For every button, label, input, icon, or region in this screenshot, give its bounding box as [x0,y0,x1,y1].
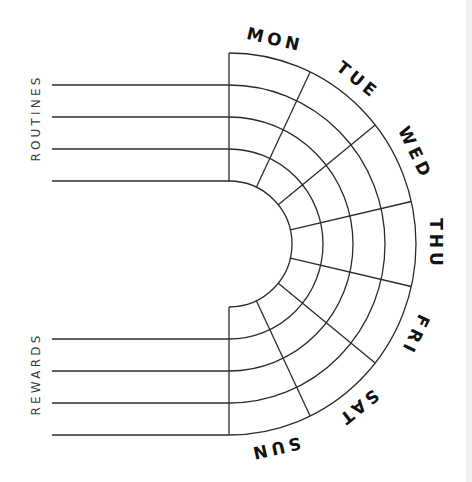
day-label-mon: MON [245,23,306,55]
day-spoke [278,283,375,363]
right-edge-strip [466,0,472,482]
day-spoke [290,258,411,286]
habit-tracker-diagram: MONTUEWEDTHUFRISATSUN ROUTINES REWARDS [0,0,472,482]
ring-arc [229,85,385,403]
day-label-thu: THU [426,218,446,270]
ring-arc [229,149,323,339]
day-spoke [278,125,375,205]
day-label-sun: SUN [247,433,302,464]
habit-wheel: MONTUEWEDTHUFRISATSUN ROUTINES REWARDS [0,0,472,482]
day-label-sat: SAT [333,386,383,431]
wheel-grid [229,53,416,435]
day-spoke [290,201,411,229]
row-lines [52,85,229,435]
day-label-wed: WED [394,123,437,183]
day-label-fri: FRI [397,311,434,358]
ring-arc [229,117,353,371]
section-label-rewards: REWARDS [29,333,43,416]
day-label-tue: TUE [333,57,384,103]
section-label-routines: ROUTINES [29,74,43,161]
ring-arc [229,181,292,307]
